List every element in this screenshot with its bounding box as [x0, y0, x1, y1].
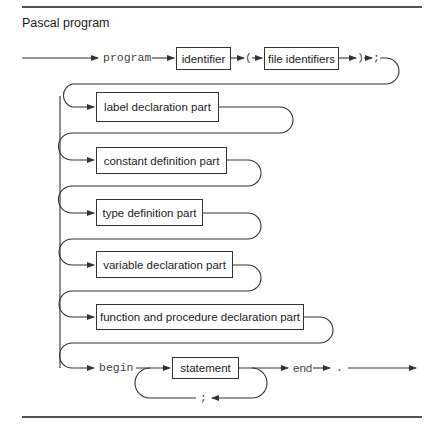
keyword-program: program [102, 52, 152, 64]
symbol-open-paren: ( [245, 52, 252, 64]
box-statement: statement [172, 357, 239, 379]
box-file-identifiers: file identifiers [264, 47, 339, 70]
box-type-definition-part: type definition part [96, 199, 203, 226]
box-function-procedure-declaration-part: function and procedure declaration part [96, 304, 304, 330]
box-label-declaration-part: label declaration part [96, 92, 219, 122]
keyword-begin: begin [98, 362, 135, 374]
keyword-end: end [292, 362, 313, 374]
symbol-semicolon-separator: ; [200, 392, 207, 404]
symbol-close-paren: ) [357, 52, 364, 64]
box-identifier: identifier [176, 47, 231, 70]
bottom-rule [22, 416, 422, 418]
symbol-semicolon: ; [373, 52, 380, 64]
box-constant-definition-part: constant definition part [96, 147, 227, 174]
symbol-period: . [336, 362, 343, 374]
box-variable-declaration-part: variable declaration part [96, 251, 233, 278]
